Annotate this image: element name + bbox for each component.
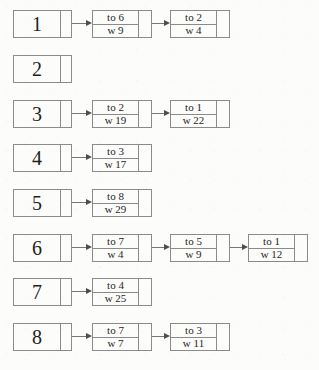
node-pointer-cell xyxy=(138,279,151,305)
adjacency-row-1: 1 to 6 w 9 to 2 w 4 xyxy=(0,10,319,38)
edge-to-label: to 7 xyxy=(93,235,138,249)
node-pointer-cell xyxy=(216,101,229,127)
adjacency-list-diagram: 1 to 6 w 9 to 2 w 4 2 3 xyxy=(0,0,319,370)
edge-weight-label: w 9 xyxy=(93,25,138,38)
vertex-box: 3 xyxy=(13,100,72,128)
edge-to-label: to 6 xyxy=(93,11,138,25)
head-pointer-cell xyxy=(60,190,71,216)
edge-weight-label: w 29 xyxy=(93,204,138,217)
edge-to-label: to 8 xyxy=(93,190,138,204)
vertex-label: 7 xyxy=(14,279,60,305)
node-pointer-cell xyxy=(138,324,151,350)
head-pointer-cell xyxy=(60,145,71,171)
head-pointer-cell xyxy=(60,101,71,127)
vertex-label: 5 xyxy=(14,190,60,216)
arrow-right-icon xyxy=(72,247,89,248)
arrow-right-icon xyxy=(72,202,89,203)
edge-weight-label: w 17 xyxy=(93,159,138,172)
vertex-label: 3 xyxy=(14,101,60,127)
edge-node: to 3 w 11 xyxy=(170,323,230,351)
head-pointer-cell xyxy=(60,324,71,350)
vertex-label: 4 xyxy=(14,145,60,171)
adjacency-row-7: 7 to 4 w 25 xyxy=(0,278,319,306)
arrow-right-icon xyxy=(152,336,167,337)
arrow-right-icon xyxy=(72,291,89,292)
vertex-box: 5 xyxy=(13,189,72,217)
arrow-right-icon xyxy=(72,336,89,337)
vertex-box: 8 xyxy=(13,323,72,351)
vertex-label: 1 xyxy=(14,11,60,37)
node-pointer-cell xyxy=(294,235,307,261)
node-pointer-cell xyxy=(138,11,151,37)
edge-node: to 2 w 19 xyxy=(92,100,152,128)
head-pointer-cell xyxy=(60,279,71,305)
edge-node: to 1 w 22 xyxy=(170,100,230,128)
edge-to-label: to 3 xyxy=(93,145,138,159)
node-pointer-cell xyxy=(216,235,229,261)
arrow-right-icon xyxy=(230,247,245,248)
vertex-label: 8 xyxy=(14,324,60,350)
vertex-box: 2 xyxy=(13,55,72,83)
vertex-box: 1 xyxy=(13,10,72,38)
adjacency-row-6: 6 to 7 w 4 to 5 w 9 to 1 w 12 xyxy=(0,234,319,262)
arrow-right-icon xyxy=(72,113,89,114)
edge-weight-label: w 4 xyxy=(93,249,138,262)
edge-node: to 1 w 12 xyxy=(248,234,308,262)
head-pointer-cell xyxy=(60,56,71,82)
edge-node: to 5 w 9 xyxy=(170,234,230,262)
edge-weight-label: w 22 xyxy=(171,115,216,128)
edge-to-label: to 2 xyxy=(171,11,216,25)
edge-weight-label: w 25 xyxy=(93,293,138,306)
arrow-right-icon xyxy=(152,113,167,114)
arrow-right-icon xyxy=(72,157,89,158)
edge-node: to 4 w 25 xyxy=(92,278,152,306)
node-pointer-cell xyxy=(138,145,151,171)
vertex-label: 2 xyxy=(14,56,60,82)
edge-node: to 2 w 4 xyxy=(170,10,230,38)
edge-to-label: to 1 xyxy=(171,101,216,115)
node-pointer-cell xyxy=(138,235,151,261)
edge-to-label: to 7 xyxy=(93,324,138,338)
edge-weight-label: w 11 xyxy=(171,338,216,351)
head-pointer-cell xyxy=(60,235,71,261)
vertex-box: 6 xyxy=(13,234,72,262)
vertex-label: 6 xyxy=(14,235,60,261)
edge-node: to 6 w 9 xyxy=(92,10,152,38)
edge-to-label: to 2 xyxy=(93,101,138,115)
arrow-right-icon xyxy=(72,23,89,24)
edge-node: to 7 w 7 xyxy=(92,323,152,351)
edge-weight-label: w 9 xyxy=(171,249,216,262)
adjacency-row-8: 8 to 7 w 7 to 3 w 11 xyxy=(0,323,319,351)
edge-node: to 8 w 29 xyxy=(92,189,152,217)
edge-to-label: to 3 xyxy=(171,324,216,338)
edge-to-label: to 4 xyxy=(93,279,138,293)
node-pointer-cell xyxy=(216,11,229,37)
vertex-box: 4 xyxy=(13,144,72,172)
head-pointer-cell xyxy=(60,11,71,37)
adjacency-row-5: 5 to 8 w 29 xyxy=(0,189,319,217)
edge-weight-label: w 7 xyxy=(93,338,138,351)
edge-weight-label: w 4 xyxy=(171,25,216,38)
vertex-box: 7 xyxy=(13,278,72,306)
node-pointer-cell xyxy=(138,101,151,127)
node-pointer-cell xyxy=(138,190,151,216)
edge-to-label: to 1 xyxy=(249,235,294,249)
node-pointer-cell xyxy=(216,324,229,350)
edge-to-label: to 5 xyxy=(171,235,216,249)
edge-weight-label: w 19 xyxy=(93,115,138,128)
edge-node: to 3 w 17 xyxy=(92,144,152,172)
adjacency-row-2: 2 xyxy=(0,55,319,83)
adjacency-row-3: 3 to 2 w 19 to 1 w 22 xyxy=(0,100,319,128)
arrow-right-icon xyxy=(152,247,167,248)
edge-weight-label: w 12 xyxy=(249,249,294,262)
edge-node: to 7 w 4 xyxy=(92,234,152,262)
arrow-right-icon xyxy=(152,23,167,24)
adjacency-row-4: 4 to 3 w 17 xyxy=(0,144,319,172)
